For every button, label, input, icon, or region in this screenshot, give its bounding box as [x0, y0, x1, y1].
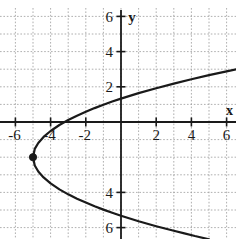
y-tick-label: 4	[106, 44, 114, 60]
x-tick-label: 4	[188, 127, 196, 143]
graph-figure: ( x , y ) -6-4-224664246yx	[0, 0, 236, 239]
y-tick-label: 6	[106, 9, 114, 25]
x-axis-label: x	[226, 103, 233, 118]
x-tick-label: -4	[43, 127, 56, 143]
x-tick-label: 6	[223, 127, 231, 143]
plot-background	[0, 0, 236, 239]
y-tick-label: 4	[106, 185, 114, 201]
y-axis-label: y	[128, 9, 136, 25]
x-tick-label: -6	[8, 127, 21, 143]
y-tick-label: 2	[106, 79, 114, 95]
vertex-point	[29, 154, 36, 161]
vertex-marker	[29, 154, 36, 161]
x-tick-label: -2	[79, 127, 92, 143]
y-tick-label: 6	[106, 220, 114, 236]
coordinate-plane: -6-4-224664246yx	[0, 0, 236, 239]
x-tick-label: 2	[152, 127, 160, 143]
